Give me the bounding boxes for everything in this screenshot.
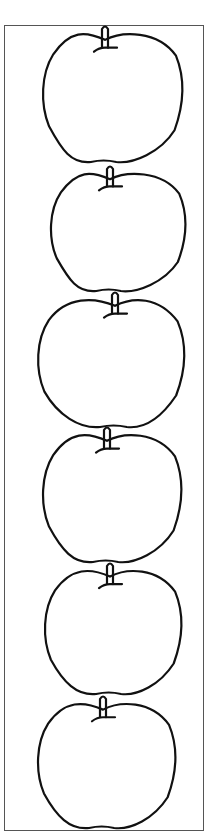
apple-body <box>45 571 181 694</box>
apple-stem-base <box>94 48 117 52</box>
apple-outline-icon <box>38 293 184 428</box>
apple-body <box>43 435 181 562</box>
apple-stem-icon <box>107 564 113 585</box>
apple-stem-base <box>92 717 115 721</box>
apple-stem-icon <box>104 428 110 449</box>
apple-body <box>38 300 184 427</box>
apples-canvas <box>0 0 214 835</box>
apple-stem-base <box>99 584 122 588</box>
apple-outline-icon <box>43 428 181 563</box>
apple-stem-base <box>96 449 119 453</box>
apple-outline-icon <box>38 697 175 829</box>
apple-body <box>51 174 185 291</box>
apple-stem-base <box>104 314 127 318</box>
apple-body <box>43 34 182 162</box>
apple-stem-icon <box>100 697 106 718</box>
apple-stem-base <box>99 186 122 190</box>
apple-stem-icon <box>107 167 113 187</box>
apple-outline-icon <box>43 27 182 163</box>
apple-outline-icon <box>45 564 181 695</box>
apple-outline-icon <box>51 167 185 292</box>
apple-stem-icon <box>102 27 108 48</box>
apple-body <box>38 704 175 828</box>
apple-stem-icon <box>112 293 118 314</box>
